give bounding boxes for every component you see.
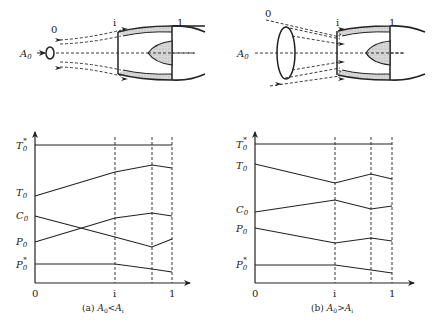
- series-C0: [255, 200, 392, 212]
- streamline-arrow-icon: [121, 77, 128, 81]
- y-label-T0: T0: [16, 187, 28, 200]
- series-C0: [35, 216, 172, 247]
- series-T0: [255, 164, 392, 183]
- caption-b: (b)A0>Ai: [311, 303, 353, 314]
- capture-area-ellipse: [46, 47, 54, 59]
- x-tick-i: i: [333, 288, 336, 299]
- area-label-a0: A0: [19, 48, 32, 61]
- y-label-P0: P0: [235, 223, 248, 236]
- figure-canvas: 0 i 1 A0: [0, 0, 435, 321]
- engine-diagram-a: 0 i 1 A0: [19, 17, 205, 81]
- station-gridlines: [335, 137, 392, 283]
- x-tick-1: 1: [169, 288, 175, 299]
- area-label-a0: A0: [236, 48, 249, 61]
- y-label-T0-star: T0*: [16, 137, 28, 153]
- x-tick-i: i: [113, 288, 116, 299]
- x-tick-1: 1: [389, 288, 395, 299]
- y-label-P0-star: P0*: [15, 256, 28, 272]
- series-P0-star: [35, 264, 172, 272]
- x-tick-0: 0: [32, 288, 38, 299]
- x-tick-0: 0: [252, 288, 258, 299]
- station-label-0: 0: [51, 24, 57, 35]
- series-T0: [35, 165, 172, 196]
- y-label-T0: T0: [236, 160, 248, 173]
- caption-a: (a)A0<Ai: [82, 303, 124, 314]
- engine-diagram-b: 0 i 1 A0: [236, 8, 425, 86]
- y-label-C0: C0: [16, 210, 29, 223]
- y-label-C0: C0: [236, 204, 249, 217]
- station-label-i: i: [336, 17, 339, 28]
- station-gridlines: [115, 137, 172, 283]
- series-P0: [35, 213, 172, 242]
- y-label-T0-star: T0*: [236, 136, 248, 152]
- series-P0-star: [255, 265, 392, 273]
- station-label-i: i: [113, 17, 116, 28]
- series-P0: [255, 228, 392, 243]
- streamline-arrow-icon: [275, 82, 282, 86]
- streamline-arrow-icon: [55, 38, 62, 42]
- chart-b: T0* T0 C0 P0 P0* 0 i 1 (b)A0>Ai: [235, 132, 414, 314]
- chart-a: T0* T0 C0 P0 P0* 0 i 1 (a)A0<Ai: [15, 132, 190, 314]
- station-label-0: 0: [265, 8, 271, 19]
- y-label-P0: P0: [15, 236, 28, 249]
- y-label-P0-star: P0*: [235, 256, 248, 272]
